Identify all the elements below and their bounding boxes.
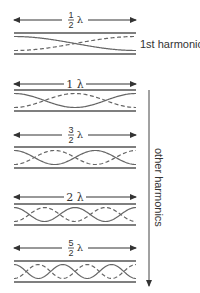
diagram-canvas: 12λ1 λ32λ2 λ52λ 1st harmonic other harmo… [0, 0, 200, 293]
harmonic-3: 32λ [14, 125, 136, 168]
lambda-symbol: λ [77, 14, 84, 25]
harmonic-1: 12λ [14, 10, 136, 54]
fraction-denominator: 2 [68, 20, 73, 30]
wave-dashed [14, 37, 136, 51]
fraction-numerator: 3 [68, 125, 73, 135]
harmonic-4: 2 λ [14, 191, 136, 225]
lambda-symbol: λ [77, 129, 84, 140]
other-harmonics-label: other harmonics [153, 148, 165, 227]
first-harmonic-label: 1st harmonic [140, 38, 200, 50]
wave-solid [14, 94, 136, 108]
lambda-symbol: λ [77, 242, 84, 253]
fraction-denominator: 2 [68, 135, 73, 145]
harmonic-5: 52λ [14, 238, 136, 282]
standing-waves-diagram: 12λ1 λ32λ2 λ52λ 1st harmonic other harmo… [0, 0, 200, 293]
fraction-numerator: 5 [68, 238, 73, 248]
harmonic-2: 1 λ [14, 78, 136, 111]
wave-dashed [14, 94, 136, 108]
wavelength-label: 2 λ [66, 191, 83, 204]
fraction-denominator: 2 [68, 248, 73, 258]
wavelength-label: 1 λ [66, 78, 83, 91]
wave-solid [14, 208, 136, 222]
harmonics-group: 12λ1 λ32λ2 λ52λ [14, 10, 136, 282]
wave-dashed [14, 208, 136, 222]
fraction-numerator: 1 [68, 10, 73, 20]
wave-dashed [14, 151, 136, 165]
